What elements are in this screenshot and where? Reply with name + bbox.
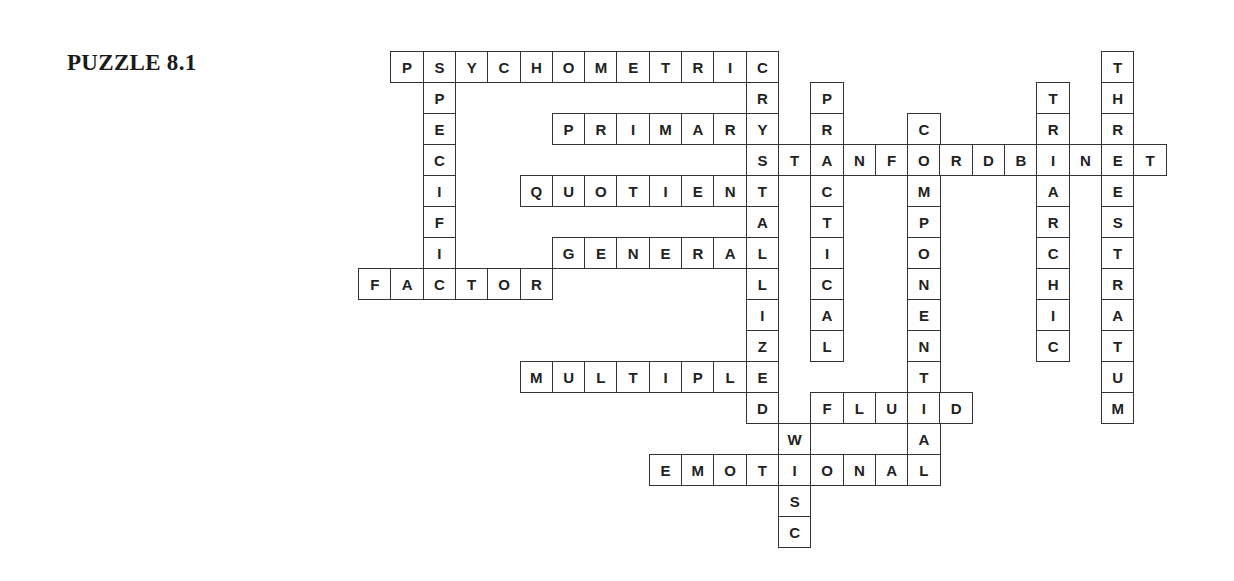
crossword-cell: L xyxy=(746,237,780,269)
crossword-cell: N xyxy=(907,268,941,300)
crossword-cell: F xyxy=(875,144,909,176)
crossword-cell: C xyxy=(810,268,844,300)
crossword-cell: E xyxy=(681,175,715,207)
crossword-cell: R xyxy=(746,82,780,114)
crossword-cell: S xyxy=(423,51,457,83)
crossword-cell: I xyxy=(713,51,747,83)
crossword-cell: I xyxy=(423,237,457,269)
crossword-cell: O xyxy=(810,454,844,486)
crossword-cell: T xyxy=(778,144,812,176)
crossword-cell: E xyxy=(1101,175,1135,207)
crossword-cell: P xyxy=(390,51,424,83)
crossword-cell: M xyxy=(681,454,715,486)
crossword-cell: E xyxy=(649,237,683,269)
crossword-cell: I xyxy=(778,454,812,486)
crossword-cell: I xyxy=(810,237,844,269)
crossword-cell: D xyxy=(972,144,1006,176)
crossword-cell: L xyxy=(713,361,747,393)
crossword-cell: W xyxy=(778,423,812,455)
crossword-cell: R xyxy=(681,51,715,83)
crossword-cell: L xyxy=(810,330,844,362)
crossword-cell: O xyxy=(907,237,941,269)
crossword-cell: A xyxy=(875,454,909,486)
crossword-cell: I xyxy=(649,361,683,393)
crossword-cell: Z xyxy=(746,330,780,362)
crossword-cell: G xyxy=(552,237,586,269)
crossword-cell: I xyxy=(649,175,683,207)
crossword-cell: R xyxy=(1101,268,1135,300)
crossword-cell: F xyxy=(810,392,844,424)
crossword-cell: C xyxy=(423,268,457,300)
crossword-cell: H xyxy=(1101,82,1135,114)
crossword-cell: I xyxy=(746,299,780,331)
crossword-cell: R xyxy=(713,113,747,145)
crossword-cell: T xyxy=(616,175,650,207)
crossword-cell: R xyxy=(1101,113,1135,145)
crossword-cell: F xyxy=(358,268,392,300)
crossword-cell: A xyxy=(810,299,844,331)
crossword-cell: F xyxy=(423,206,457,238)
crossword-cell: I xyxy=(907,392,941,424)
crossword-grid: PSYCHOMETRICPECIFICRYSTALLIZEDPRIMARTANF… xyxy=(0,0,1234,581)
crossword-cell: C xyxy=(810,175,844,207)
crossword-cell: A xyxy=(713,237,747,269)
crossword-cell: P xyxy=(810,82,844,114)
crossword-cell: I xyxy=(423,175,457,207)
crossword-cell: C xyxy=(423,144,457,176)
crossword-cell: Q xyxy=(520,175,554,207)
crossword-cell: T xyxy=(746,175,780,207)
crossword-cell: E xyxy=(1101,144,1135,176)
crossword-cell: L xyxy=(584,361,618,393)
crossword-cell: N xyxy=(616,237,650,269)
crossword-cell: E xyxy=(423,113,457,145)
crossword-cell: T xyxy=(1101,330,1135,362)
crossword-cell: C xyxy=(487,51,521,83)
crossword-cell: U xyxy=(875,392,909,424)
crossword-cell: L xyxy=(907,454,941,486)
crossword-cell: N xyxy=(843,144,877,176)
crossword-cell: P xyxy=(552,113,586,145)
crossword-cell: U xyxy=(1101,361,1135,393)
crossword-cell: C xyxy=(907,113,941,145)
crossword-cell: H xyxy=(1036,268,1070,300)
crossword-cell: P xyxy=(423,82,457,114)
crossword-cell: O xyxy=(584,175,618,207)
crossword-cell: P xyxy=(681,361,715,393)
crossword-cell: A xyxy=(1036,175,1070,207)
crossword-cell: A xyxy=(681,113,715,145)
crossword-cell: U xyxy=(552,361,586,393)
crossword-cell: T xyxy=(616,361,650,393)
crossword-cell: N xyxy=(843,454,877,486)
crossword-cell: C xyxy=(778,516,812,548)
crossword-cell: I xyxy=(1036,144,1070,176)
crossword-cell: O xyxy=(552,51,586,83)
crossword-cell: O xyxy=(487,268,521,300)
crossword-cell: E xyxy=(649,454,683,486)
crossword-cell: R xyxy=(584,113,618,145)
crossword-cell: U xyxy=(552,175,586,207)
crossword-cell: I xyxy=(1036,299,1070,331)
crossword-cell: C xyxy=(1036,330,1070,362)
crossword-cell: A xyxy=(1101,299,1135,331)
crossword-cell: E xyxy=(584,237,618,269)
crossword-cell: E xyxy=(616,51,650,83)
crossword-cell: D xyxy=(939,392,973,424)
crossword-cell: N xyxy=(907,330,941,362)
crossword-cell: M xyxy=(1101,392,1135,424)
crossword-cell: M xyxy=(584,51,618,83)
crossword-cell: R xyxy=(1036,113,1070,145)
crossword-cell: T xyxy=(1036,82,1070,114)
crossword-cell: R xyxy=(1036,206,1070,238)
crossword-cell: L xyxy=(843,392,877,424)
crossword-cell: E xyxy=(746,361,780,393)
crossword-cell: L xyxy=(746,268,780,300)
crossword-cell: Y xyxy=(455,51,489,83)
crossword-cell: I xyxy=(616,113,650,145)
crossword-cell: T xyxy=(746,454,780,486)
crossword-cell: S xyxy=(1101,206,1135,238)
crossword-cell: T xyxy=(1133,144,1167,176)
crossword-cell: M xyxy=(520,361,554,393)
crossword-cell: S xyxy=(746,144,780,176)
crossword-cell: R xyxy=(810,113,844,145)
crossword-cell: A xyxy=(810,144,844,176)
